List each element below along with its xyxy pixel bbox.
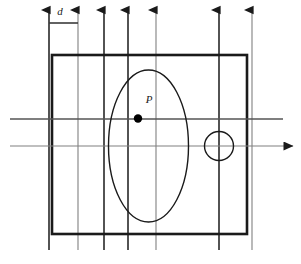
spacing-label: d: [57, 5, 63, 17]
figure-background: [0, 0, 301, 264]
figure-container: d P: [0, 0, 301, 264]
sample-point-P: [134, 114, 142, 122]
figure-diagram: d P: [0, 0, 301, 264]
point-label-P: P: [145, 93, 153, 105]
